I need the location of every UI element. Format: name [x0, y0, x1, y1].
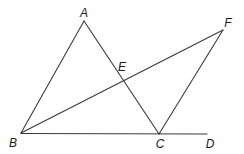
point-label-d: D: [206, 138, 215, 150]
segment-bf: [21, 30, 223, 133]
point-label-e: E: [118, 61, 126, 73]
point-label-b: B: [9, 137, 17, 149]
point-label-f: F: [224, 17, 231, 29]
segment-bd: [21, 134, 207, 135]
geometry-diagram: A B C D E F: [0, 0, 244, 154]
segment-ab: [21, 21, 84, 133]
segment-cf: [159, 30, 223, 134]
point-label-a: A: [80, 7, 88, 19]
diagram-canvas: [0, 0, 244, 154]
segment-ac: [84, 21, 159, 134]
point-label-c: C: [156, 138, 165, 150]
